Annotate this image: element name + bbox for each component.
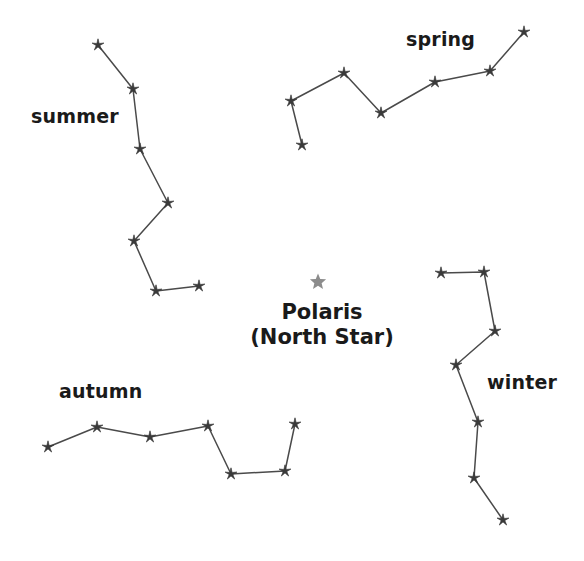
constellation-line-winter <box>441 272 503 520</box>
constellation-layer <box>42 26 530 525</box>
star-marker <box>91 421 103 432</box>
star-marker <box>285 95 297 106</box>
polaris-star-marker <box>310 274 326 289</box>
star-marker <box>42 441 54 452</box>
constellation-line-summer <box>98 45 199 291</box>
polaris-subtitle: (North Star) <box>222 325 422 350</box>
star-marker <box>435 267 447 278</box>
star-marker <box>92 39 104 50</box>
star-marker <box>225 468 237 479</box>
star-marker <box>193 280 205 291</box>
star-marker <box>134 143 146 154</box>
constellation-autumn <box>42 418 301 479</box>
star-marker <box>202 420 214 431</box>
star-marker <box>296 139 308 150</box>
constellation-svg <box>0 0 584 561</box>
star-chart-canvas: summer spring autumn winter Polaris (Nor… <box>0 0 584 561</box>
season-label-spring: spring <box>406 28 475 50</box>
polaris-star-icon <box>310 274 326 289</box>
season-label-winter: winter <box>487 371 557 393</box>
season-label-autumn: autumn <box>59 380 142 402</box>
star-marker <box>518 26 530 37</box>
star-marker <box>429 76 441 87</box>
star-marker <box>468 472 480 483</box>
star-marker <box>150 285 162 296</box>
polaris-name: Polaris <box>222 300 422 325</box>
constellation-line-autumn <box>48 424 295 474</box>
star-marker <box>162 197 174 208</box>
polaris-label-block: Polaris (North Star) <box>222 300 422 350</box>
star-marker <box>497 514 509 525</box>
constellation-winter <box>435 266 509 525</box>
star-marker <box>338 67 350 78</box>
star-marker <box>279 465 291 476</box>
constellation-summer <box>92 39 205 296</box>
season-label-summer: summer <box>31 105 119 127</box>
star-marker <box>144 431 156 442</box>
